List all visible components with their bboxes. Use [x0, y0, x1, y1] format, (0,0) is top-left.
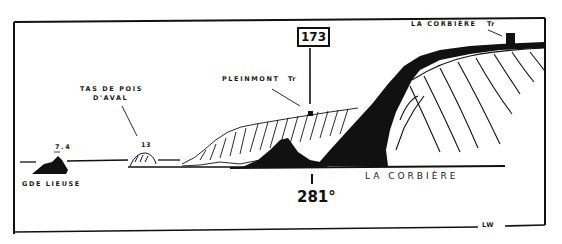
gde-lieuse-rock: [32, 156, 68, 174]
low-water-label: LW: [482, 221, 494, 229]
pleinmont-tower: [308, 111, 313, 116]
la-corbiere-label-top: LA CORBIÈRE: [411, 20, 477, 28]
tas-de-pois-label-line2: D'AVAL: [93, 94, 128, 102]
coastal-view-drawing: [0, 0, 562, 244]
la-corbiere-leader: [488, 30, 502, 36]
bearing-label: 281°: [297, 188, 336, 206]
pleinmont-tower-label: Tr: [288, 75, 296, 83]
gde-lieuse-label: GDE LIEUSE: [22, 180, 81, 188]
pleinmont-leader-arrow: [272, 89, 300, 106]
tas-de-pois-height: 13: [141, 141, 151, 149]
la-corbiere-tower-label: Tr: [487, 20, 495, 28]
mid-dark-rocks: [240, 138, 330, 168]
la-corbiere-headland: [316, 42, 544, 166]
tas-de-pois-rock: [130, 153, 156, 166]
page-reference-sign: 173: [297, 27, 330, 47]
tas-de-pois-label-line1: TAS DE POIS: [80, 85, 143, 93]
tas-leader-arrow: [122, 106, 137, 136]
pleinmont-label: PLEINMONT: [222, 75, 279, 83]
la-corbiere-tower: [506, 33, 515, 45]
la-corbiere-label-bottom: LA CORBIÈRE: [365, 171, 458, 181]
gde-lieuse-height: 7.4: [55, 143, 71, 151]
